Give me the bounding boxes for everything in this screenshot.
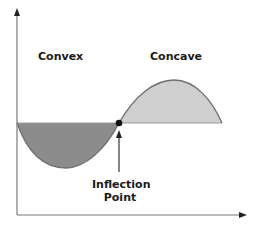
inflection-label-line2: Point	[92, 191, 148, 204]
inflection-point-marker	[116, 120, 123, 127]
concave-label: Concave	[150, 50, 202, 63]
inflection-arrow-icon	[116, 130, 122, 138]
y-axis-arrow-icon	[14, 8, 20, 16]
x-axis-arrow-icon	[239, 212, 247, 218]
inflection-point-label: Inflection Point	[92, 178, 148, 204]
convex-label: Convex	[38, 50, 83, 63]
inflection-label-line1: Inflection	[92, 178, 148, 191]
